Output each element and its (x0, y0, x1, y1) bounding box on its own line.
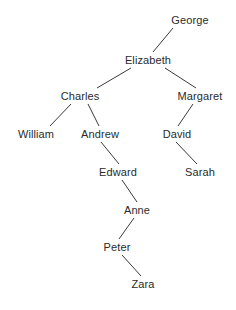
tree-edge-margaret-david (178, 104, 193, 126)
tree-edge-elizabeth-charles (97, 68, 131, 88)
tree-node-edward[interactable]: Edward (99, 166, 137, 178)
tree-node-elizabeth[interactable]: Elizabeth (125, 54, 171, 66)
edge-layer (0, 0, 236, 310)
family-tree-diagram: GeorgeElizabethCharlesMargaretWilliamAnd… (0, 0, 236, 310)
tree-node-william[interactable]: William (18, 128, 54, 140)
tree-edge-andrew-edward (101, 142, 119, 164)
tree-edge-elizabeth-margaret (165, 68, 196, 88)
tree-node-margaret[interactable]: Margaret (178, 90, 223, 102)
tree-edge-anne-peter (119, 218, 134, 239)
tree-node-peter[interactable]: Peter (104, 241, 131, 253)
tree-node-sarah[interactable]: Sarah (185, 166, 215, 178)
tree-edge-peter-zara (122, 255, 141, 276)
tree-node-andrew[interactable]: Andrew (81, 128, 119, 140)
tree-node-anne[interactable]: Anne (124, 204, 150, 216)
tree-edge-edward-anne (122, 180, 137, 202)
tree-node-george[interactable]: George (171, 14, 208, 26)
tree-edge-george-elizabeth (153, 28, 173, 52)
tree-node-charles[interactable]: Charles (61, 90, 100, 102)
tree-edge-david-sarah (176, 142, 197, 164)
tree-edge-charles-william (50, 104, 71, 126)
tree-node-zara[interactable]: Zara (131, 278, 154, 290)
tree-node-david[interactable]: David (163, 128, 192, 140)
tree-edge-charles-andrew (88, 104, 99, 126)
